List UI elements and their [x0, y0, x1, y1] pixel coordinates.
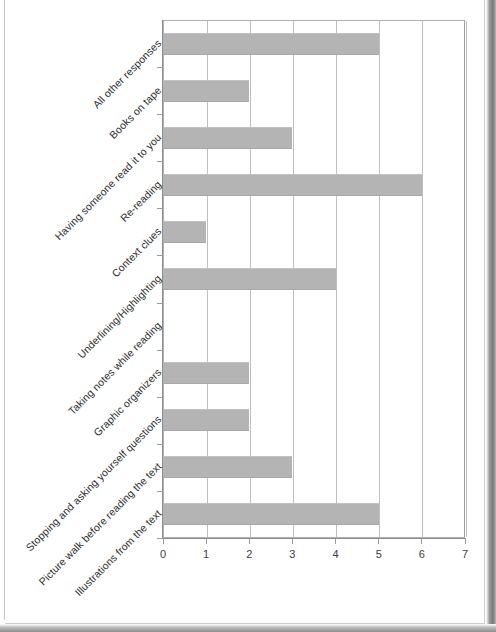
x-tick-label-6: 6 [410, 548, 434, 560]
x-tick-mark-4 [335, 539, 336, 544]
x-tick-mark-5 [378, 539, 379, 544]
scanned-page: 01234567All other responsesBooks on tape… [0, 0, 496, 632]
category-tick-4 [157, 255, 163, 256]
x-tick-label-4: 4 [324, 548, 348, 560]
bar [163, 127, 292, 149]
x-tick-mark-2 [249, 539, 250, 544]
category-tick-8 [157, 444, 163, 445]
category-label-text: Taking notes while reading [66, 319, 164, 417]
x-tick-label-3: 3 [280, 548, 304, 560]
gridline-6 [422, 21, 423, 537]
bar [163, 362, 249, 384]
category-label-text: Context clues [109, 225, 163, 279]
bar [163, 268, 336, 290]
page-right-shadow [486, 0, 496, 626]
category-label-text: Re-reading [118, 178, 164, 224]
category-tick-3 [157, 208, 163, 209]
x-tick-label-0: 0 [151, 548, 175, 560]
x-tick-label-5: 5 [367, 548, 391, 560]
category-tick-7 [157, 397, 163, 398]
x-tick-mark-7 [465, 539, 466, 544]
category-label-text: Illustrations from the text [72, 507, 163, 598]
bar-chart: 01234567All other responsesBooks on tape… [0, 0, 486, 624]
bar [163, 221, 206, 243]
x-tick-mark-0 [163, 539, 164, 544]
gridline-5 [379, 21, 380, 537]
x-tick-mark-1 [206, 539, 207, 544]
x-tick-mark-6 [421, 539, 422, 544]
bar [163, 503, 379, 525]
x-tick-label-2: 2 [237, 548, 261, 560]
category-tick-6 [157, 350, 163, 351]
category-tick-5 [157, 303, 163, 304]
bar [163, 409, 249, 431]
category-tick-1 [157, 114, 163, 115]
page-bottom-shadow [0, 624, 496, 632]
category-tick-9 [157, 491, 163, 492]
bar [163, 33, 379, 55]
bar [163, 80, 249, 102]
x-tick-label-1: 1 [194, 548, 218, 560]
category-tick-10 [157, 538, 163, 539]
category-label-text: Underlining/Highlighting [75, 272, 164, 361]
x-tick-mark-3 [292, 539, 293, 544]
bar [163, 174, 422, 196]
gridline-4 [336, 21, 337, 537]
gridline-7 [466, 21, 467, 537]
category-tick-2 [157, 161, 163, 162]
x-tick-label-7: 7 [453, 548, 477, 560]
category-tick-0 [157, 67, 163, 68]
bar [163, 456, 292, 478]
